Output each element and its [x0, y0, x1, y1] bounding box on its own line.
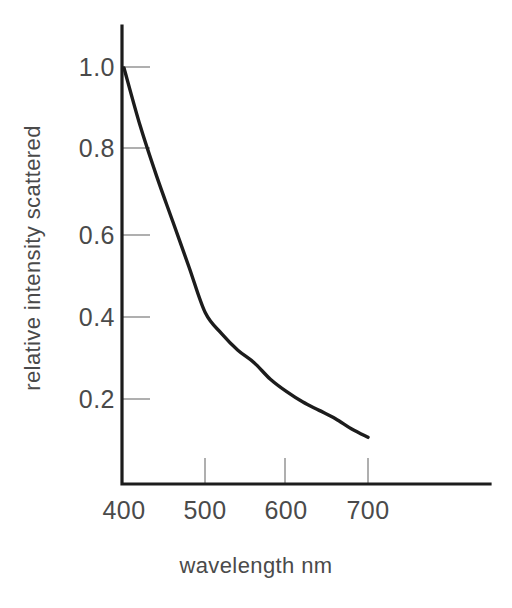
- x-tick-label-700: 700: [346, 496, 389, 524]
- scattering-line-chart: 1.0 0.8 0.6 0.4 0.2 400 500 600 700 wave…: [0, 0, 512, 608]
- y-tick-label-0_6: 0.6: [79, 221, 115, 249]
- y-tick-label-0_2: 0.2: [79, 385, 115, 413]
- x-tick-label-600: 600: [264, 496, 307, 524]
- chart-background: [0, 0, 512, 608]
- y-tick-label-0_8: 0.8: [79, 134, 115, 162]
- x-tick-label-400: 400: [102, 496, 145, 524]
- x-axis-title: wavelength nm: [178, 553, 332, 578]
- x-tick-label-500: 500: [183, 496, 226, 524]
- y-axis-title: relative intensity scattered: [20, 125, 45, 391]
- y-tick-label-1_0: 1.0: [79, 53, 115, 81]
- chart-figure: 1.0 0.8 0.6 0.4 0.2 400 500 600 700 wave…: [0, 0, 512, 608]
- y-tick-label-0_4: 0.4: [79, 303, 115, 331]
